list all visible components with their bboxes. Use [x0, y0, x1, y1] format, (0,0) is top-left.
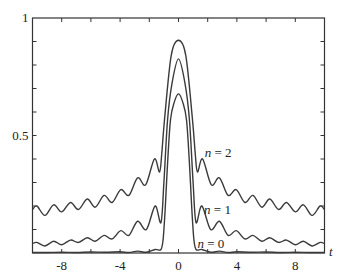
- plot-frame: [33, 18, 325, 253]
- tick-labels: -8-40480.51: [12, 10, 298, 273]
- series-label: n = 2: [205, 145, 232, 160]
- x-tick-label: 8: [292, 258, 299, 273]
- x-tick-label: -4: [115, 258, 126, 273]
- series-labels: n = 2n = 1n = 0: [197, 145, 231, 252]
- curves: [33, 40, 325, 252]
- axis-ticks: [33, 18, 325, 253]
- curve-n1: [33, 59, 325, 246]
- series-label: n = 1: [204, 202, 231, 217]
- line-chart: -8-40480.51 n = 2n = 1n = 0 t: [0, 0, 343, 280]
- x-axis-label: t: [329, 244, 333, 259]
- curve-n2: [33, 40, 325, 215]
- axes-box: [33, 18, 325, 253]
- x-tick-label: 0: [175, 258, 182, 273]
- curve-n0: [33, 94, 325, 253]
- y-tick-label: 1: [22, 10, 29, 25]
- x-tick-label: 4: [234, 258, 241, 273]
- y-tick-label: 0.5: [12, 128, 28, 143]
- series-label: n = 0: [197, 236, 224, 251]
- x-tick-label: -8: [56, 258, 67, 273]
